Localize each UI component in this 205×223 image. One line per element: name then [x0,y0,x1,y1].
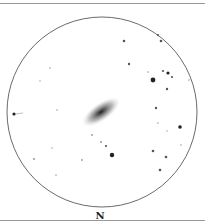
star [123,40,126,43]
star [56,109,58,111]
star [171,76,173,78]
star [81,159,83,161]
star [91,134,93,136]
bottom-border [0,220,205,221]
star [39,80,40,81]
star [166,88,168,90]
star [147,71,149,73]
star [157,122,159,124]
star [160,40,163,43]
star [159,169,162,172]
star [152,150,155,153]
star [188,79,190,81]
star [165,156,168,159]
star [151,78,156,83]
star [49,67,51,69]
eyepiece-sketch: N [0,0,205,223]
star [155,107,157,109]
star [105,145,107,147]
star [128,63,130,65]
star [166,130,167,131]
star [180,144,182,146]
star [100,141,102,143]
star [55,174,57,176]
star [110,153,114,157]
star [51,147,52,148]
star [157,34,159,36]
arrow-marker [15,113,23,114]
star [166,71,169,74]
field-of-view [0,0,205,223]
star [33,158,35,160]
star [162,70,164,72]
galaxy [78,92,124,132]
star [178,125,182,129]
